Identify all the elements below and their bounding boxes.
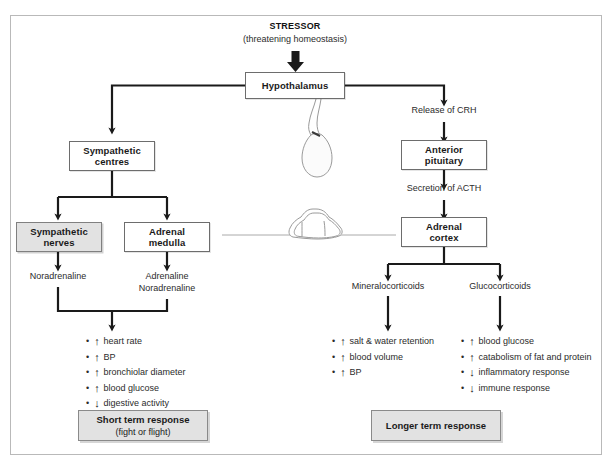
list-item-label: inflammatory response bbox=[476, 367, 570, 377]
arrow-up-icon: ↑ bbox=[468, 353, 476, 362]
list-item: •↓ inflammatory response bbox=[461, 365, 592, 381]
arrow-up-icon: ↑ bbox=[339, 337, 347, 346]
node-adrenal-medulla[interactable]: Adrenal medulla bbox=[124, 222, 210, 252]
bullet-icon: • bbox=[461, 334, 468, 350]
list-item: •↑ BP bbox=[86, 350, 186, 366]
edge-label-secretion-acth: Secretion of ACTH bbox=[389, 183, 499, 195]
list-item-label: bronchiolar diameter bbox=[101, 367, 186, 377]
arrow-up-icon: ↑ bbox=[93, 368, 101, 377]
short-term-response-line1: Short term response bbox=[97, 414, 190, 426]
node-sympathetic-centres[interactable]: Sympathetic centres bbox=[69, 141, 155, 171]
node-anterior-pituitary[interactable]: Anterior pituitary bbox=[401, 140, 487, 170]
bullet-icon: • bbox=[461, 350, 468, 366]
bullet-icon: • bbox=[86, 350, 93, 366]
node-adrenal-medulla-label: Adrenal medulla bbox=[149, 226, 186, 249]
bullet-icon: • bbox=[332, 365, 339, 381]
list-item: •↑ catabolism of fat and protein bbox=[461, 350, 592, 366]
arrow-up-icon: ↑ bbox=[339, 368, 347, 377]
list-item-label: heart rate bbox=[101, 336, 142, 346]
list-item: •↑ bronchiolar diameter bbox=[86, 365, 186, 381]
node-hypothalamus[interactable]: Hypothalamus bbox=[245, 72, 345, 99]
edge-label-glucocorticoids: Glucocorticoids bbox=[453, 281, 547, 293]
arrow-down-icon: ↓ bbox=[93, 399, 101, 408]
arrow-up-icon: ↑ bbox=[468, 337, 476, 346]
list-item: •↑ blood glucose bbox=[86, 381, 186, 397]
arrow-up-icon: ↑ bbox=[93, 353, 101, 362]
diagram-canvas: STRESSOR (threatening homeostasis) Hypot… bbox=[0, 0, 612, 468]
list-item: •↑ salt & water retention bbox=[332, 334, 434, 350]
pituitary-gland-sketch bbox=[302, 99, 332, 177]
stressor-subtitle: (threatening homeostasis) bbox=[215, 34, 375, 46]
edge-label-noradrenaline-right: Noradrenaline bbox=[124, 283, 210, 295]
longer-term-response-line1: Longer term response bbox=[386, 420, 486, 432]
list-item-label: blood volume bbox=[347, 352, 403, 362]
node-sympathetic-centres-label: Sympathetic centres bbox=[83, 145, 141, 168]
effects-list-sympathetic: •↑ heart rate•↑ BP•↑ bronchiolar diamete… bbox=[86, 334, 186, 412]
list-item-label: digestive activity bbox=[101, 398, 169, 408]
list-item-label: blood glucose bbox=[101, 383, 159, 393]
arrow-up-icon: ↑ bbox=[93, 384, 101, 393]
longer-term-response-box[interactable]: Longer term response bbox=[371, 410, 501, 441]
edge-label-adrenaline: Adrenaline bbox=[124, 271, 210, 283]
bullet-icon: • bbox=[461, 381, 468, 397]
edge-label-mineralocorticoids: Mineralocorticoids bbox=[333, 281, 443, 293]
node-adrenal-cortex[interactable]: Adrenal cortex bbox=[401, 217, 487, 247]
list-item-label: blood glucose bbox=[476, 336, 534, 346]
bullet-icon: • bbox=[86, 381, 93, 397]
stressor-title: STRESSOR bbox=[245, 21, 345, 33]
node-sympathetic-nerves-label: Sympathetic nerves bbox=[30, 226, 88, 249]
list-item-label: BP bbox=[347, 367, 362, 377]
adrenal-gland-sketch bbox=[289, 209, 342, 239]
bullet-icon: • bbox=[461, 365, 468, 381]
list-item: •↑ blood glucose bbox=[461, 334, 592, 350]
node-sympathetic-nerves[interactable]: Sympathetic nerves bbox=[16, 222, 102, 252]
short-term-response-line2: (fight or flight) bbox=[115, 426, 170, 438]
short-term-response-box[interactable]: Short term response (fight or flight) bbox=[78, 410, 208, 441]
bullet-icon: • bbox=[332, 350, 339, 366]
bullet-icon: • bbox=[86, 334, 93, 350]
bullet-icon: • bbox=[86, 365, 93, 381]
list-item-label: salt & water retention bbox=[347, 336, 434, 346]
effects-list-mineralocorticoid: •↑ salt & water retention•↑ blood volume… bbox=[332, 334, 434, 381]
list-item: •↑ heart rate bbox=[86, 334, 186, 350]
arrow-up-icon: ↑ bbox=[93, 337, 101, 346]
node-adrenal-cortex-label: Adrenal cortex bbox=[426, 221, 462, 244]
arrow-down-icon: ↓ bbox=[468, 368, 476, 377]
effects-list-glucocorticoid: •↑ blood glucose•↑ catabolism of fat and… bbox=[461, 334, 592, 396]
list-item: •↓ immune response bbox=[461, 381, 592, 397]
stressor-block-arrow bbox=[287, 51, 304, 72]
arrow-up-icon: ↑ bbox=[339, 353, 347, 362]
list-item: •↑ blood volume bbox=[332, 350, 434, 366]
list-item-label: catabolism of fat and protein bbox=[476, 352, 592, 362]
list-item-label: BP bbox=[101, 352, 116, 362]
list-item-label: immune response bbox=[476, 383, 550, 393]
edge-label-noradrenaline-left: Noradrenaline bbox=[13, 271, 103, 283]
node-hypothalamus-label: Hypothalamus bbox=[262, 80, 329, 92]
node-anterior-pituitary-label: Anterior pituitary bbox=[425, 144, 463, 167]
edge-label-release-crh: Release of CRH bbox=[394, 105, 494, 117]
bullet-icon: • bbox=[332, 334, 339, 350]
list-item: •↑ BP bbox=[332, 365, 434, 381]
arrow-down-icon: ↓ bbox=[468, 384, 476, 393]
